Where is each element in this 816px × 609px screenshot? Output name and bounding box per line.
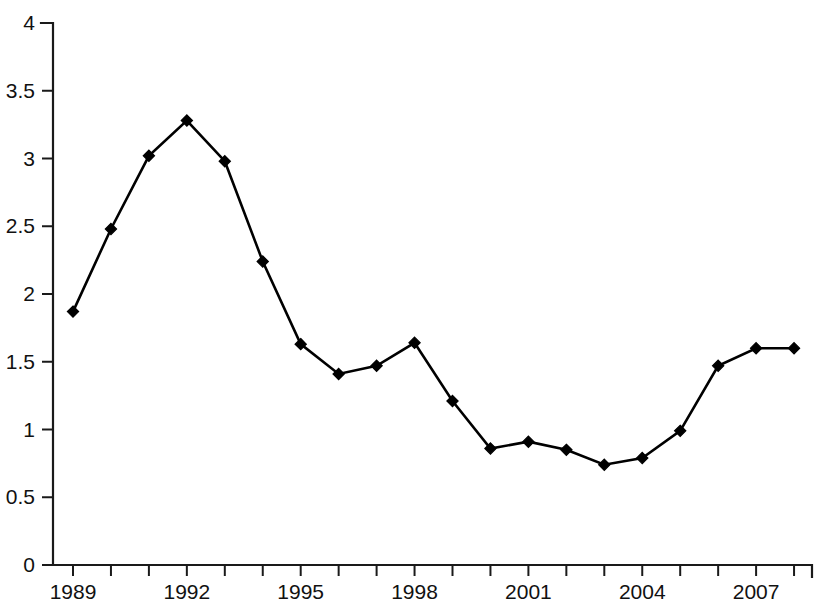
y-axis-tick-label: 3 <box>23 147 35 170</box>
x-axis-tick-label: 1998 <box>391 580 438 603</box>
x-axis-tick-label: 1992 <box>163 580 210 603</box>
y-axis-tick-label: 1.5 <box>6 350 35 373</box>
y-axis-tick-label: 0 <box>23 553 35 576</box>
chart-background <box>0 0 816 609</box>
line-chart: 00.511.522.533.54 1989199219951998200120… <box>0 0 816 609</box>
x-axis-tick-label: 2004 <box>619 580 666 603</box>
y-axis-tick-label: 1 <box>23 418 35 441</box>
y-axis-tick-label: 2 <box>23 282 35 305</box>
y-axis-tick-label: 2.5 <box>6 214 35 237</box>
x-axis-tick-label: 2007 <box>733 580 780 603</box>
x-axis-tick-label: 1989 <box>50 580 97 603</box>
x-axis-tick-label: 1995 <box>277 580 324 603</box>
y-axis-tick-label: 3.5 <box>6 79 35 102</box>
y-axis-tick-label: 0.5 <box>6 485 35 508</box>
y-axis-tick-label: 4 <box>23 11 35 34</box>
x-axis-tick-label: 2001 <box>505 580 552 603</box>
chart-container: 00.511.522.533.54 1989199219951998200120… <box>0 0 816 609</box>
